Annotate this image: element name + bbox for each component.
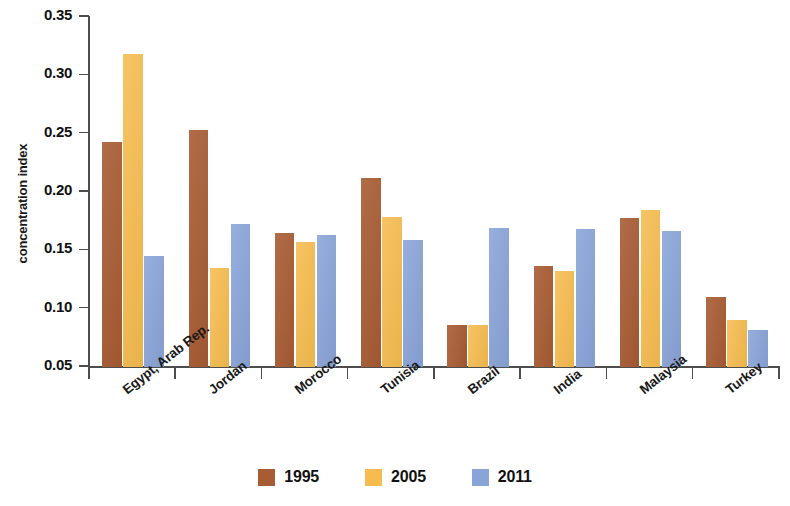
- legend-label: 2011: [498, 468, 532, 486]
- x-axis-category-label: Brazil: [464, 363, 501, 397]
- bar: [727, 320, 747, 367]
- bar-chart-figure: concentration index 0.350.300.250.200.15…: [0, 0, 790, 506]
- x-axis-tick: [88, 368, 90, 379]
- y-axis-tick-label: 0.10: [14, 298, 72, 315]
- y-axis-tick-label: 0.25: [14, 123, 72, 140]
- legend-swatch-icon: [365, 469, 382, 486]
- x-axis-tick: [433, 368, 435, 379]
- legend-label: 2005: [391, 468, 426, 486]
- y-axis-tick-label: 0.05: [14, 356, 72, 373]
- legend-entry: 2005: [365, 468, 426, 486]
- x-axis-tick: [778, 368, 780, 379]
- x-axis-tick: [174, 368, 176, 379]
- x-axis-tick: [261, 368, 263, 379]
- bar-group: [88, 16, 778, 367]
- plot-area: [88, 16, 778, 367]
- legend-entry: 2011: [472, 468, 532, 486]
- x-axis-tick: [347, 368, 349, 379]
- x-axis-tick: [519, 368, 521, 379]
- chart-legend: 199520052011: [0, 468, 790, 486]
- x-axis-category-label: India: [551, 366, 584, 397]
- x-axis-tick: [606, 368, 608, 379]
- legend-swatch-icon: [472, 469, 489, 486]
- y-axis-tick-label: 0.35: [14, 6, 72, 23]
- legend-swatch-icon: [258, 469, 275, 486]
- legend-label: 1995: [284, 468, 319, 486]
- y-axis-tick-label: 0.20: [14, 181, 72, 198]
- x-axis-tick: [692, 368, 694, 379]
- legend-entry: 1995: [258, 468, 319, 486]
- bar: [706, 297, 726, 367]
- y-axis-tick-label: 0.15: [14, 239, 72, 256]
- y-axis-tick-label: 0.30: [14, 64, 72, 81]
